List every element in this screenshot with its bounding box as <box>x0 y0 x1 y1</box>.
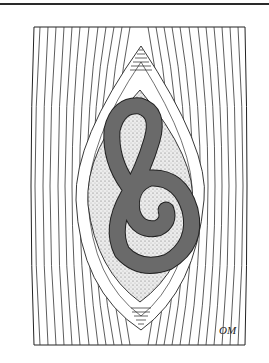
artist-signature: OM <box>219 324 236 336</box>
muscle-cyst-illustration <box>0 0 269 363</box>
